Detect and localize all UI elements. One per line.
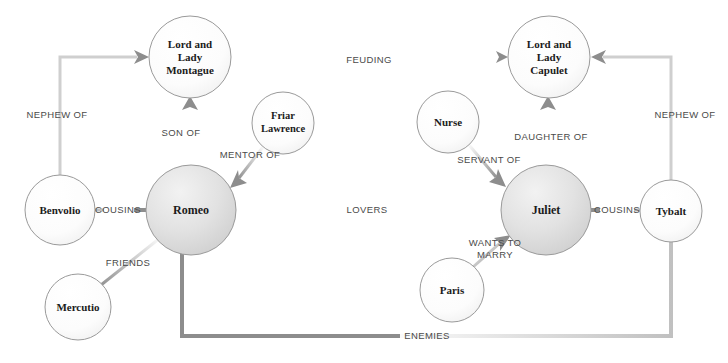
edge-label-enemies: ENEMIES [404,330,450,341]
edge-label-servant-of: SERVANT OF [457,154,521,165]
node-label-capulet-line1: Lord and [527,38,571,50]
character-relationship-diagram: Lord and Lady Montague Lord and Lady Cap… [0,0,728,363]
edge-label-daughter-of: DAUGHTER OF [514,131,588,142]
edge-label-lovers: LOVERS [347,204,388,215]
node-label-benvolio: Benvolio [40,204,81,216]
edge-label-nephew-of-left: NEPHEW OF [26,109,87,120]
node-label-friar-lawrence-line2: Lawrence [261,123,305,134]
edge-label-friends: FRIENDS [106,257,151,268]
node-label-montague-line3: Montague [166,64,214,76]
node-montague[interactable]: Lord and Lady Montague [149,16,231,98]
node-label-capulet-line3: Capulet [530,64,568,76]
node-friar-lawrence[interactable]: Friar Lawrence [252,92,314,154]
graph-canvas: Lord and Lady Montague Lord and Lady Cap… [0,0,728,363]
edge-label-wants-to-marry-line1: WANTS TO [469,237,522,248]
node-label-tybalt: Tybalt [656,205,687,217]
edge-label-feuding: FEUDING [346,54,392,65]
edge-label-cousins-right: COUSINS [594,204,640,215]
edge-label-wants-to-marry-line2: MARRY [477,249,513,260]
node-label-mercutio: Mercutio [56,301,100,313]
node-label-juliet: Juliet [532,203,561,217]
node-capulet[interactable]: Lord and Lady Capulet [508,16,590,98]
node-benvolio[interactable]: Benvolio [25,175,95,245]
node-label-nurse: Nurse [434,116,462,128]
node-label-capulet-line2: Lady [537,51,562,63]
node-label-romeo: Romeo [173,203,209,217]
node-label-paris: Paris [440,284,465,296]
edge-label-mentor-of: MENTOR OF [220,149,280,160]
node-label-montague-line1: Lord and [168,38,212,50]
node-nurse[interactable]: Nurse [417,91,479,153]
node-label-montague-line2: Lady [178,51,203,63]
node-tybalt[interactable]: Tybalt [640,180,702,242]
node-paris[interactable]: Paris [420,258,484,322]
node-mercutio[interactable]: Mercutio [45,274,111,340]
edge-servant-of [469,145,506,187]
node-label-friar-lawrence-line1: Friar [271,110,295,121]
edge-label-cousins-left: COUSINS [95,204,141,215]
edge-label-nephew-of-right: NEPHEW OF [654,109,715,120]
edge-label-son-of: SON OF [162,127,201,138]
node-romeo[interactable]: Romeo [146,165,236,255]
